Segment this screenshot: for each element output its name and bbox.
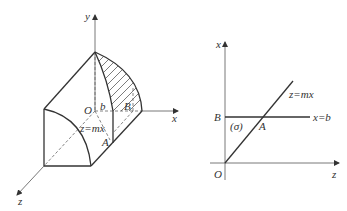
A-label-right: A xyxy=(258,120,266,132)
b-label: b xyxy=(100,100,106,112)
origin-label-right: O xyxy=(214,168,222,180)
horizontal-axis-label: z xyxy=(331,168,337,180)
z-axis xyxy=(17,166,44,195)
plane-label: z=mx xyxy=(79,122,105,134)
front-arc xyxy=(44,109,91,166)
B-label-right: B xyxy=(214,111,221,123)
origin-label: O xyxy=(84,104,92,116)
x-label: x xyxy=(171,112,177,124)
bottom-diagonal-edge xyxy=(91,111,142,166)
top-edge xyxy=(44,52,95,109)
vertical-axis-label: x xyxy=(215,38,221,50)
z-equals-mx-label: z=mx xyxy=(288,88,314,100)
region-sigma-label: (σ) xyxy=(230,120,243,133)
z-axis-hidden xyxy=(44,111,95,166)
z-label: z xyxy=(17,195,23,207)
figure-canvas: y x z O b B z=mx A x z O B A (σ) z=mx x=… xyxy=(0,0,347,211)
y-label: y xyxy=(84,10,90,22)
left-panel-3d-solid: y x z O b B z=mx A xyxy=(17,10,178,207)
x-equals-b-label: x=b xyxy=(312,111,331,123)
B-to-A-line xyxy=(113,111,133,133)
right-panel-projection: x z O B A (σ) z=mx x=b xyxy=(210,38,339,180)
A-label: A xyxy=(101,136,109,148)
B-label: B xyxy=(124,100,131,112)
